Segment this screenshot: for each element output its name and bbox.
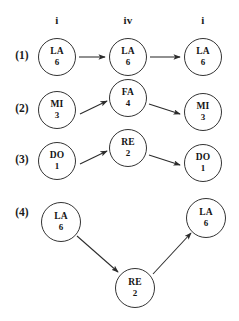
node-syllable: RE bbox=[128, 278, 142, 288]
node-syllable: LA bbox=[121, 47, 135, 57]
node-number: 2 bbox=[133, 289, 138, 298]
node-syllable: LA bbox=[50, 47, 64, 57]
column-header-2: iv bbox=[113, 14, 143, 26]
column-header-1: i bbox=[42, 14, 72, 26]
node-syllable: LA bbox=[199, 208, 213, 218]
row-label-4: (4) bbox=[8, 206, 36, 218]
row-label-3: (3) bbox=[8, 153, 36, 165]
node-n4b[interactable]: RE 2 bbox=[115, 268, 155, 308]
node-syllable: LA bbox=[196, 47, 210, 57]
node-number: 2 bbox=[126, 149, 131, 158]
node-syllable: DO bbox=[50, 151, 65, 161]
node-number: 1 bbox=[55, 162, 60, 171]
edge-row3-a bbox=[80, 151, 107, 164]
node-number: 6 bbox=[126, 58, 131, 67]
edge-row2-a bbox=[80, 101, 107, 114]
node-syllable: MI bbox=[196, 102, 209, 112]
edge-row4-b bbox=[153, 233, 191, 274]
node-number: 6 bbox=[59, 223, 64, 232]
node-number: 4 bbox=[126, 99, 131, 108]
node-n2c[interactable]: MI 3 bbox=[184, 93, 222, 131]
edge-row4-a bbox=[77, 236, 118, 272]
node-syllable: DO bbox=[196, 153, 211, 163]
node-n2a[interactable]: MI 3 bbox=[38, 91, 76, 129]
node-syllable: LA bbox=[54, 212, 68, 222]
node-n1c[interactable]: LA 6 bbox=[184, 38, 222, 76]
node-syllable: FA bbox=[122, 88, 134, 98]
node-n1b[interactable]: LA 6 bbox=[109, 38, 147, 76]
edge-row2-b bbox=[149, 104, 180, 114]
column-header-3: i bbox=[188, 14, 218, 26]
node-n4c[interactable]: LA 6 bbox=[186, 198, 226, 238]
node-syllable: RE bbox=[121, 138, 135, 148]
node-n4a[interactable]: LA 6 bbox=[41, 202, 81, 242]
edge-row3-b bbox=[149, 155, 180, 165]
node-number: 6 bbox=[55, 58, 60, 67]
node-n3c[interactable]: DO 1 bbox=[184, 144, 222, 182]
node-number: 1 bbox=[201, 164, 206, 173]
row-label-2: (2) bbox=[8, 102, 36, 114]
node-n3a[interactable]: DO 1 bbox=[38, 142, 76, 180]
node-number: 3 bbox=[55, 111, 60, 120]
chord-progression-diagram: i iv i (1) (2) (3) (4) LA 6 LA 6 LA bbox=[0, 0, 239, 321]
node-number: 3 bbox=[201, 113, 206, 122]
node-n3b[interactable]: RE 2 bbox=[109, 129, 147, 167]
node-number: 6 bbox=[201, 58, 206, 67]
node-n2b[interactable]: FA 4 bbox=[109, 79, 147, 117]
node-n1a[interactable]: LA 6 bbox=[38, 38, 76, 76]
node-syllable: MI bbox=[50, 100, 63, 110]
row-label-1: (1) bbox=[8, 49, 36, 61]
node-number: 6 bbox=[204, 219, 209, 228]
